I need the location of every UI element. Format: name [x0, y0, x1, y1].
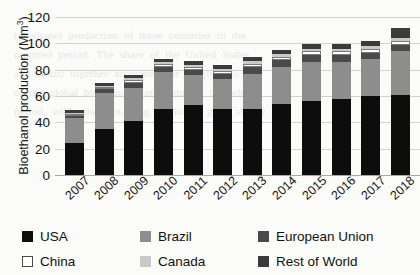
segment-usa-2018 — [391, 95, 410, 175]
y-tick-120: 120 — [27, 10, 50, 25]
segment-usa-2012 — [213, 109, 232, 175]
segment-usa-2013 — [243, 109, 262, 175]
y-axis-title: Bioethanol production (Mm3) — [11, 8, 29, 183]
x-tick-2014: 2014 — [269, 174, 299, 203]
segment-brazil-2009 — [124, 88, 143, 121]
bar-2010 — [154, 17, 173, 175]
segment-usa-2007 — [65, 143, 84, 175]
x-tick-2007: 2007 — [62, 174, 92, 203]
bar-2012 — [213, 17, 232, 175]
x-tick-2012: 2012 — [210, 174, 240, 203]
bar-2016 — [332, 17, 351, 175]
legend-swatch-eu-icon — [258, 231, 269, 242]
segment-usa-2008 — [95, 129, 114, 175]
x-label-slot-2008: 2008 — [95, 179, 114, 219]
segment-usa-2009 — [124, 121, 143, 175]
y-tick-100: 100 — [27, 36, 50, 51]
legend-item-row[interactable]: Rest of World — [258, 254, 414, 269]
bar-2009 — [124, 17, 143, 175]
segment-eu-2014 — [272, 60, 291, 67]
legend-swatch-brazil-icon — [140, 231, 151, 242]
x-tick-2015: 2015 — [299, 174, 329, 203]
x-tick-2008: 2008 — [92, 174, 122, 203]
segment-brazil-2008 — [95, 93, 114, 129]
x-tick-2018: 2018 — [388, 174, 418, 203]
legend-swatch-usa-icon — [22, 231, 33, 242]
legend-label-usa: USA — [40, 229, 68, 244]
segment-brazil-2018 — [391, 51, 410, 94]
x-tick-2016: 2016 — [329, 174, 359, 203]
segment-brazil-2017 — [361, 59, 380, 96]
legend-item-canada[interactable]: Canada — [140, 254, 258, 269]
bar-2017 — [361, 17, 380, 175]
x-label-slot-2015: 2015 — [302, 179, 321, 219]
chart-legend: USABrazilEuropean UnionChinaCanadaRest o… — [22, 224, 414, 274]
x-label-slot-2017: 2017 — [361, 179, 380, 219]
x-label-slot-2011: 2011 — [184, 179, 203, 219]
x-axis-labels: 2007200820092010201120122013201420152016… — [55, 179, 420, 219]
legend-item-brazil[interactable]: Brazil — [140, 229, 258, 244]
bar-2013 — [243, 17, 262, 175]
y-tick-0: 0 — [42, 168, 50, 183]
segment-brazil-2010 — [154, 72, 173, 109]
segment-brazil-2012 — [213, 79, 232, 109]
legend-item-eu[interactable]: European Union — [258, 229, 414, 244]
segment-eu-2016 — [332, 55, 351, 62]
segment-eu-2015 — [302, 55, 321, 62]
bar-2015 — [302, 17, 321, 175]
segment-brazil-2016 — [332, 62, 351, 99]
x-tick-2011: 2011 — [181, 174, 210, 203]
bar-2008 — [95, 17, 114, 175]
segment-usa-2010 — [154, 109, 173, 175]
bar-series-container — [55, 17, 420, 175]
x-tick-2009: 2009 — [121, 174, 151, 203]
legend-label-china: China — [40, 254, 75, 269]
bar-2018 — [391, 17, 410, 175]
legend-label-brazil: Brazil — [158, 229, 192, 244]
legend-item-usa[interactable]: USA — [22, 229, 140, 244]
legend-label-canada: Canada — [158, 254, 205, 269]
legend-label-eu: European Union — [276, 229, 374, 244]
segment-brazil-2011 — [184, 75, 203, 105]
y-tick-60: 60 — [35, 89, 50, 104]
x-tick-2017: 2017 — [358, 174, 388, 203]
plot-area: 020406080100120 200720082009201020112012… — [55, 8, 420, 183]
x-label-slot-2012: 2012 — [213, 179, 232, 219]
segment-brazil-2007 — [65, 118, 84, 143]
bioethanol-production-chart: Bioethanol production (Mm3) 020406080100… — [0, 0, 420, 275]
x-label-slot-2007: 2007 — [65, 179, 84, 219]
segment-usa-2015 — [302, 101, 321, 175]
x-label-slot-2018: 2018 — [391, 179, 410, 219]
bar-2007 — [65, 17, 84, 175]
x-tick-2013: 2013 — [240, 174, 270, 203]
segment-row-2018 — [391, 28, 410, 39]
y-axis-title-superscript: 3 — [15, 21, 25, 26]
legend-swatch-row-icon — [258, 256, 269, 267]
x-label-slot-2016: 2016 — [332, 179, 351, 219]
bar-2011 — [184, 17, 203, 175]
y-tick-20: 20 — [35, 141, 50, 156]
y-tick-80: 80 — [35, 62, 50, 77]
legend-item-china[interactable]: China — [22, 254, 140, 269]
x-label-slot-2010: 2010 — [154, 179, 173, 219]
legend-swatch-canada-icon — [140, 256, 151, 267]
segment-eu-2018 — [391, 45, 410, 52]
segment-brazil-2013 — [243, 74, 262, 110]
segment-brazil-2014 — [272, 67, 291, 104]
legend-swatch-china-icon — [22, 256, 33, 267]
x-label-slot-2014: 2014 — [272, 179, 291, 219]
segment-usa-2017 — [361, 96, 380, 175]
segment-usa-2011 — [184, 105, 203, 175]
bar-2014 — [272, 17, 291, 175]
legend-label-row: Rest of World — [276, 254, 358, 269]
segment-eu-2013 — [243, 67, 262, 74]
segment-usa-2016 — [332, 99, 351, 175]
x-tick-2010: 2010 — [151, 174, 181, 203]
x-label-slot-2013: 2013 — [243, 179, 262, 219]
segment-eu-2017 — [361, 53, 380, 60]
segment-usa-2014 — [272, 104, 291, 175]
x-label-slot-2009: 2009 — [124, 179, 143, 219]
y-tick-40: 40 — [35, 115, 50, 130]
segment-brazil-2015 — [302, 62, 321, 102]
